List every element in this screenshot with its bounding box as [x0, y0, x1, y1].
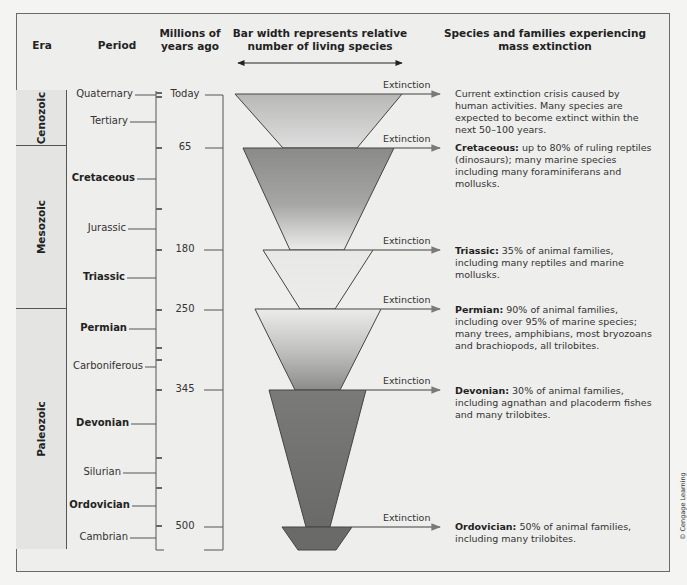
period-cambrian: Cambrian: [60, 531, 128, 542]
time-mark-today: Today: [165, 88, 205, 99]
extinction-label-permian: Extinction: [383, 294, 430, 305]
extinction-period-devonian: Devonian:: [455, 385, 509, 396]
extinction-desc-ordovician: Ordovician: 50% of animal families, incl…: [455, 521, 655, 545]
period-permian: Permian: [60, 322, 127, 333]
extinction-desc-current-text: Current extinction crisis caused by huma…: [455, 88, 639, 135]
extinction-period-cretaceous: Cretaceous:: [455, 142, 519, 153]
extinction-period-triassic: Triassic:: [455, 245, 499, 256]
time-mark-500: 500: [165, 520, 205, 531]
extinction-desc-devonian: Devonian: 30% of animal families, includ…: [455, 385, 655, 421]
time-mark-250: 250: [165, 303, 205, 314]
time-mark-180: 180: [165, 243, 205, 254]
time-mark-65: 65: [165, 141, 205, 152]
extinction-desc-current: Current extinction crisis caused by huma…: [455, 88, 655, 136]
extinction-period-ordovician: Ordovician:: [455, 521, 516, 532]
extinction-label-ordovician: Extinction: [383, 512, 430, 523]
extinction-desc-triassic: Triassic: 35% of animal families, includ…: [455, 245, 655, 281]
extinction-desc-permian: Permian: 90% of animal families, includi…: [455, 304, 655, 352]
extinction-label-cretaceous: Extinction: [383, 133, 430, 144]
period-triassic: Triassic: [60, 271, 125, 282]
period-carboniferous: Carboniferous: [55, 360, 143, 371]
copyright-credit: © Cengage Learning: [679, 472, 687, 540]
extinction-period-permian: Permian:: [455, 304, 503, 315]
extinction-label-devonian: Extinction: [383, 375, 430, 386]
extinction-label-triassic: Extinction: [383, 235, 430, 246]
period-silurian: Silurian: [60, 466, 121, 477]
period-cretaceous: Cretaceous: [60, 172, 135, 183]
period-tertiary: Tertiary: [60, 115, 128, 126]
time-mark-345: 345: [165, 383, 205, 394]
extinction-desc-cretaceous: Cretaceous: up to 80% of ruling reptiles…: [455, 142, 655, 190]
period-quaternary: Quaternary: [60, 88, 133, 99]
extinction-label-current: Extinction: [383, 79, 430, 90]
period-ordovician: Ordovician: [60, 499, 130, 510]
period-jurassic: Jurassic: [60, 222, 126, 233]
period-devonian: Devonian: [60, 417, 129, 428]
